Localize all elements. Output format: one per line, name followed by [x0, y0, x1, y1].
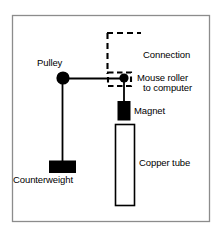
label-counterweight: Counterweight [13, 174, 73, 185]
label-connection-line2: to computer [143, 82, 192, 93]
physics-diagram: Connection to computer Mouse roller Magn… [0, 0, 221, 231]
copper-tube-outline [116, 125, 135, 206]
label-mouse-roller: Mouse roller [137, 72, 188, 83]
label-connection-line1: Connection [143, 49, 192, 60]
magnet-block [118, 101, 131, 121]
pulley-circle [56, 71, 69, 84]
label-copper-tube: Copper tube [139, 157, 190, 168]
label-magnet: Magnet [134, 105, 165, 116]
label-pulley: Pulley [37, 57, 62, 68]
label-connection-to-computer: Connection to computer [143, 27, 192, 115]
counterweight-block [49, 161, 76, 174]
roller-dot [119, 73, 128, 82]
